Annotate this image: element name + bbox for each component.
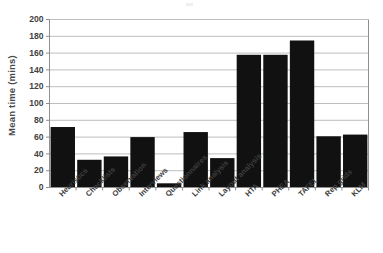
y-axis-ticks: 020406080100120140160180200 xyxy=(29,14,49,192)
bars xyxy=(51,41,368,188)
y-tick-label: 80 xyxy=(34,115,44,125)
y-tick-label: 60 xyxy=(34,132,44,142)
y-tick-label: 40 xyxy=(34,149,44,159)
y-tick-label: 100 xyxy=(29,98,44,108)
chart-canvas: 020406080100120140160180200 HeuristicsCh… xyxy=(0,0,383,253)
y-tick-label: 200 xyxy=(29,14,44,24)
y-tick-label: 20 xyxy=(34,165,44,175)
y-tick-label: 180 xyxy=(29,31,44,41)
y-tick-label: 140 xyxy=(29,65,44,75)
y-tick-label: 160 xyxy=(29,48,44,58)
y-tick-label: 0 xyxy=(39,182,44,192)
y-tick-label: 120 xyxy=(29,81,44,91)
bar xyxy=(290,41,314,188)
bar-chart: Mean time (mins) 02040608010012014016018… xyxy=(0,0,383,253)
bar xyxy=(263,55,287,188)
plot-area: 020406080100120140160180200 HeuristicsCh… xyxy=(0,0,383,253)
